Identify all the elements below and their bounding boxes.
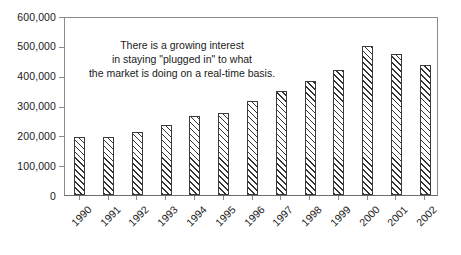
x-tick-mark <box>223 196 224 200</box>
x-tick-mark <box>79 196 80 200</box>
x-tick-mark <box>309 196 310 200</box>
x-tick-mark <box>338 196 339 200</box>
x-tick-mark <box>136 196 137 200</box>
x-tick-mark <box>252 196 253 200</box>
bar-chart: 0100,000200,000300,000400,000500,000600,… <box>0 0 461 255</box>
x-tick-mark <box>165 196 166 200</box>
x-tick-mark <box>367 196 368 200</box>
x-tick-mark <box>280 196 281 200</box>
annotation-line: in staying "plugged in" to what <box>88 52 276 66</box>
annotation-line: the market is doing on a real-time basis… <box>88 66 276 80</box>
x-tick-mark <box>194 196 195 200</box>
x-tick-mark <box>108 196 109 200</box>
annotation-line: There is a growing interest <box>88 38 276 52</box>
x-tick-mark <box>424 196 425 200</box>
x-tick-mark <box>395 196 396 200</box>
chart-annotation: There is a growing interestin staying "p… <box>88 38 276 81</box>
